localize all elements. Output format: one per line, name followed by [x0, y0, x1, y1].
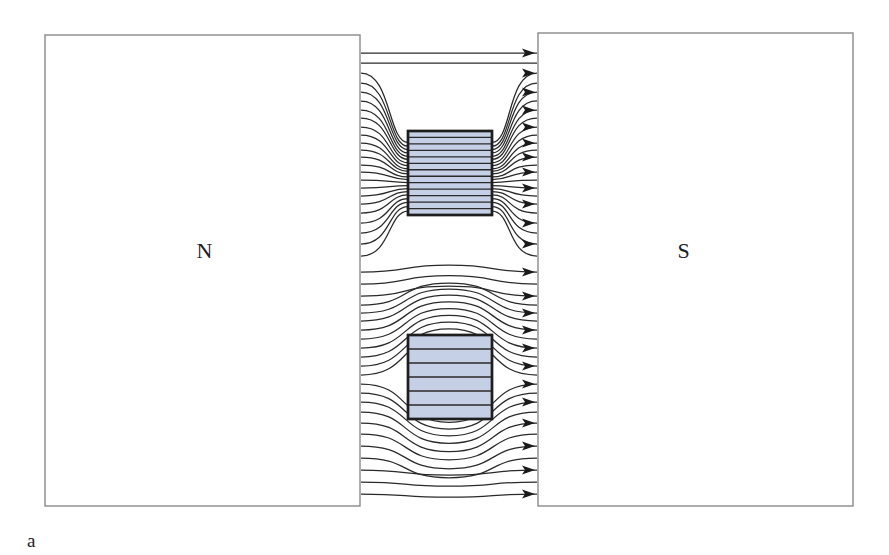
field-line — [361, 446, 537, 469]
north-pole-block — [45, 35, 360, 506]
arrow-head-icon — [522, 168, 535, 177]
arrow-head-icon — [522, 200, 535, 209]
upper-sample — [408, 131, 492, 215]
arrow-head-icon — [522, 326, 535, 335]
arrow-head-icon — [522, 309, 535, 318]
field-line — [361, 494, 537, 497]
arrow-head-icon — [522, 442, 535, 451]
lower-sample — [408, 335, 492, 419]
field-line — [361, 470, 537, 475]
arrow-head-icon — [522, 153, 535, 162]
north-pole-label: N — [197, 238, 213, 263]
arrow-head-icon — [522, 106, 535, 115]
south-pole-label: S — [677, 238, 689, 263]
arrow-head-icon — [522, 362, 535, 371]
arrow-head-icon — [522, 419, 535, 428]
north-pole: N — [45, 35, 360, 506]
field-line — [361, 289, 537, 313]
arrow-head-icon — [522, 398, 535, 407]
figure-caption-label: a — [27, 530, 35, 552]
arrow-head-icon — [522, 344, 535, 353]
arrow-head-icon — [522, 380, 535, 389]
arrow-head-icon — [522, 219, 535, 228]
arrow-head-icon — [522, 240, 535, 249]
arrow-head-icon — [522, 88, 535, 97]
south-pole-block — [538, 33, 853, 506]
field-line — [361, 265, 537, 272]
field-lines — [361, 49, 537, 499]
arrow-head-icon — [522, 139, 535, 148]
samples — [408, 131, 492, 419]
field-diagram: N S — [0, 0, 889, 555]
south-pole: S — [538, 33, 853, 506]
field-line — [361, 482, 537, 486]
field-line — [361, 434, 537, 460]
arrow-head-icon — [522, 69, 535, 78]
arrow-head-icon — [522, 123, 535, 132]
